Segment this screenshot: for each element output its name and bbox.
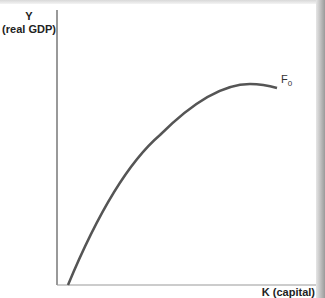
x-axis-label: K (capital)	[262, 286, 315, 298]
curve-label-subscript: 0	[288, 79, 292, 88]
curve-label: F0	[281, 73, 292, 88]
y-axis-label-symbol: Y	[2, 10, 56, 23]
production-curve-f0	[68, 84, 277, 285]
y-axis-label: Y (real GDP)	[2, 10, 56, 36]
y-axis-label-text: (real GDP)	[2, 23, 56, 36]
production-function-diagram	[0, 0, 325, 298]
curve-label-main: F	[281, 73, 288, 85]
